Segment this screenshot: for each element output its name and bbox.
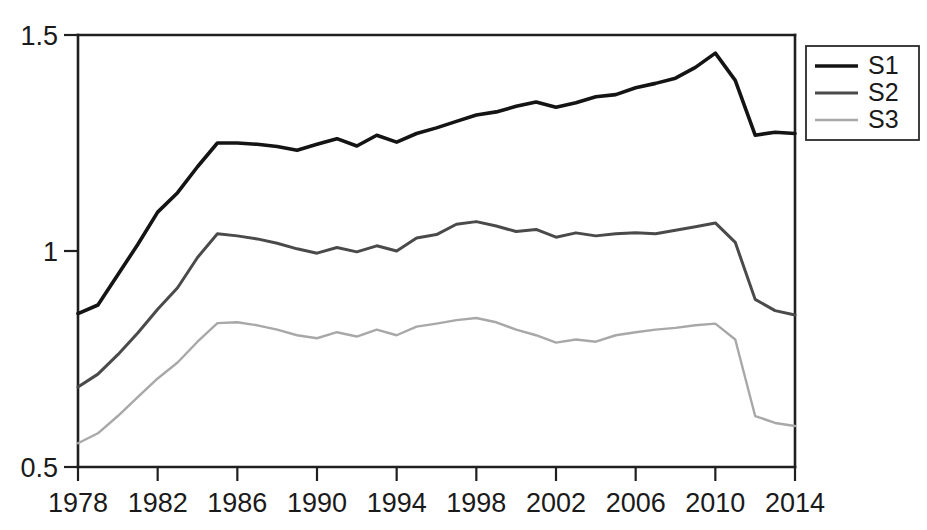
chart-legend: S1S2S3 [806, 46, 919, 140]
legend-label-s3: S3 [868, 105, 899, 133]
x-tick-label: 2006 [606, 488, 666, 518]
chart-container: 0.511.5 19781982198619901994199820022006… [0, 0, 927, 530]
series-lines [78, 53, 795, 443]
line-chart: 0.511.5 19781982198619901994199820022006… [0, 0, 927, 530]
y-tick-label: 1.5 [20, 21, 58, 51]
y-axis: 0.511.5 [20, 21, 795, 483]
x-tick-label: 1982 [128, 488, 188, 518]
legend-label-s2: S2 [868, 78, 899, 106]
x-tick-label: 2014 [765, 488, 825, 518]
y-tick-label: 1 [43, 237, 58, 267]
x-tick-label: 2002 [526, 488, 586, 518]
x-axis: 1978198219861990199419982002200620102014 [48, 35, 825, 518]
x-tick-label: 1998 [446, 488, 506, 518]
y-tick-label: 0.5 [20, 453, 58, 483]
x-tick-label: 1986 [207, 488, 267, 518]
x-tick-label: 2010 [685, 488, 745, 518]
x-tick-label: 1994 [367, 488, 427, 518]
x-tick-label: 1990 [287, 488, 347, 518]
series-line-s2 [78, 222, 795, 387]
series-line-s3 [78, 318, 795, 443]
x-tick-label: 1978 [48, 488, 108, 518]
legend-label-s1: S1 [868, 51, 899, 79]
